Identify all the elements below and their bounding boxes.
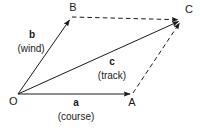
vector-diagram: O A B C a (course) b (wind) c (track) [0,0,200,128]
edge-AC [133,23,180,93]
vector-canvas [0,0,200,128]
edge-group [18,17,180,94]
vector-label-a-name: a [73,98,79,108]
edge-OC [18,22,179,95]
vertex-label-O: O [9,96,18,107]
vector-label-b-description: (wind) [17,44,44,54]
vertex-label-B: B [69,2,76,13]
vertex-label-C: C [185,4,193,15]
vector-label-a-description: (course) [58,112,95,122]
vector-label-c-description: (track) [98,71,126,81]
vector-label-b-name: b [29,30,35,40]
vertex-label-A: A [128,97,135,108]
edge-BC [72,17,178,20]
vector-label-c-name: c [109,57,115,67]
